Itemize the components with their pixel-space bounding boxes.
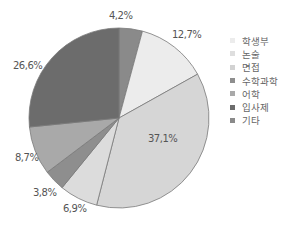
- legend-swatch-icon: [230, 118, 235, 123]
- chart-legend: 학생부 논술 면접 수학과학 어학 입사제 기타: [230, 34, 278, 127]
- slice-label-student-record: 12,7%: [172, 29, 201, 40]
- slice-label-essay: 37,1%: [148, 133, 177, 144]
- legend-item: 입사제: [230, 100, 278, 113]
- legend-item: 면접: [230, 61, 278, 74]
- pie-slice: [29, 28, 119, 127]
- slice-label-etc: 4,2%: [109, 10, 132, 21]
- legend-swatch-icon: [230, 38, 235, 43]
- legend-item: 학생부: [230, 34, 278, 47]
- slice-label-interview: 6,9%: [63, 203, 86, 214]
- legend-swatch-icon: [230, 91, 235, 96]
- legend-item: 어학: [230, 87, 278, 100]
- legend-item: 수학과학: [230, 74, 278, 87]
- legend-swatch-icon: [230, 105, 235, 110]
- slice-label-admission-officer: 26,6%: [13, 60, 42, 71]
- legend-swatch-icon: [230, 65, 235, 70]
- legend-swatch-icon: [230, 51, 235, 56]
- slice-label-math-science: 3,8%: [33, 187, 56, 198]
- legend-item: 기타: [230, 114, 278, 127]
- legend-swatch-icon: [230, 78, 235, 83]
- legend-item: 논술: [230, 47, 278, 60]
- slice-label-language: 8,7%: [15, 152, 38, 163]
- pie-slices: [29, 28, 209, 208]
